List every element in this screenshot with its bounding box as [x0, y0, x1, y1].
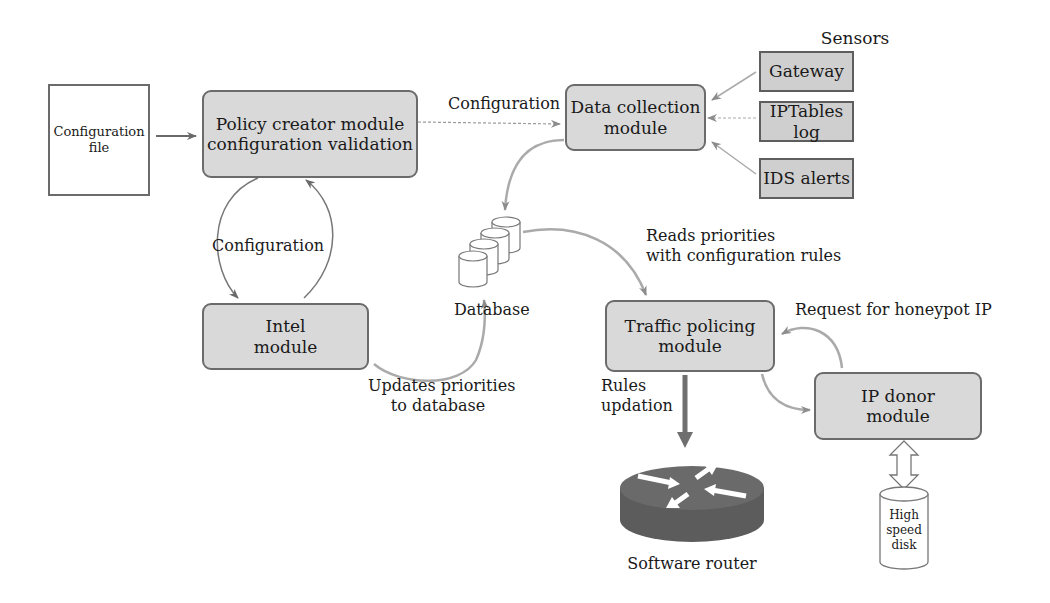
sensors-title: Sensors [780, 28, 930, 49]
configuration-file-node: Configuration file [48, 84, 150, 196]
database-icon [459, 217, 520, 287]
data-collection-module-node: Data collection module [565, 84, 706, 151]
arrow-ipdonor-to-traffic [782, 328, 842, 368]
arrow-traffic-to-ipdonor [762, 374, 810, 410]
traffic-line-1: Traffic policing [625, 316, 756, 336]
intel-module-node: Intel module [202, 303, 369, 370]
sensor-iptables-log: IPTables log [759, 101, 854, 142]
policy-line-2: configuration validation [207, 134, 413, 154]
sensor-gateway: Gateway [759, 51, 854, 92]
data-collection-line-2: module [571, 118, 701, 138]
ip-donor-line-1: IP donor [861, 386, 935, 406]
arrow-datacollection-to-database [505, 140, 564, 210]
data-collection-line-1: Data collection [571, 97, 701, 117]
arrow-ids-to-datacollection [712, 142, 756, 174]
edge-label-configuration-loop: Configuration [212, 236, 324, 256]
intel-line-2: module [254, 337, 318, 357]
arrow-gateway-to-datacollection [712, 72, 756, 100]
arrow-policy-to-datacollection [418, 122, 560, 124]
config-file-line-2: file [53, 140, 144, 156]
ip-donor-module-node: IP donor module [814, 372, 982, 440]
high-speed-disk-label: High speed disk [880, 508, 928, 553]
edge-label-updates-priorities: Updates priorities to database [368, 376, 508, 416]
database-label: Database [454, 300, 530, 320]
software-router-label: Software router [615, 554, 769, 574]
arrow-database-to-traffic [523, 229, 646, 295]
sensor-ids-alerts: IDS alerts [759, 158, 854, 199]
traffic-policing-module-node: Traffic policing module [605, 300, 775, 372]
edge-label-request-honeypot: Request for honeypot IP [795, 300, 992, 320]
config-file-line-1: Configuration [53, 124, 144, 140]
arrow-ipdonor-disk-bidirectional [890, 441, 918, 489]
policy-line-1: Policy creator module [207, 114, 413, 134]
ip-donor-line-2: module [861, 406, 935, 426]
intel-line-1: Intel [254, 316, 318, 336]
policy-creator-module-node: Policy creator module configuration vali… [202, 90, 418, 178]
software-router-icon [620, 464, 764, 542]
edge-label-rules-updation: Rules updation [601, 376, 673, 416]
edge-label-configuration-top: Configuration [448, 94, 560, 114]
traffic-line-2: module [625, 336, 756, 356]
edge-label-reads-priorities: Reads priorities with configuration rule… [646, 226, 841, 266]
